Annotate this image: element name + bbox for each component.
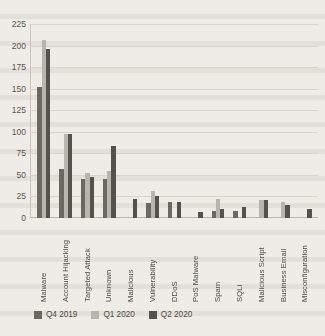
x-axis-tick-label: Targeted Attack <box>84 220 92 302</box>
x-axis-tick-label: Vulnerability <box>149 220 157 302</box>
bar <box>220 209 224 218</box>
x-axis-label-cell: SQLi <box>229 220 251 302</box>
legend-item[interactable]: Q1 2020 <box>91 310 134 319</box>
x-axis-tick-label: Misconfiguration <box>301 220 309 302</box>
x-axis-tick-label: SQLi <box>236 220 244 302</box>
bar <box>242 207 246 218</box>
x-axis-label-cell: Vulnerability <box>142 220 164 302</box>
y-axis-tick-label: 75 <box>0 148 26 158</box>
bar-group <box>207 24 229 218</box>
bar-group <box>251 24 273 218</box>
legend-swatch <box>149 311 157 319</box>
x-axis-tick-label: DDoS <box>171 220 179 302</box>
legend-item[interactable]: Q2 2020 <box>149 310 192 319</box>
bar <box>285 205 289 218</box>
x-axis-tick-label: Business Email <box>280 220 288 302</box>
y-axis-tick-label: 0 <box>0 213 26 223</box>
plot-area <box>30 24 318 218</box>
x-axis-label-cell: Business Email <box>272 220 294 302</box>
x-axis-label-cell: Account Hijacking <box>55 220 77 302</box>
grouped-bar-chart: 0255075100125150175200225 MalwareAccount… <box>0 0 325 336</box>
x-axis-tick-label: Spam <box>214 220 222 302</box>
y-axis-tick-label: 125 <box>0 105 26 115</box>
x-axis-tick-label: Unknown <box>105 220 113 302</box>
x-axis-label-cell: PoS Malware <box>185 220 207 302</box>
x-axis-label-cell: Misconfiguration <box>294 220 316 302</box>
x-axis-label-cell: Unknown <box>98 220 120 302</box>
bar-group <box>33 24 55 218</box>
x-axis-tick-labels: MalwareAccount HijackingTargeted AttackU… <box>30 220 318 302</box>
bar <box>168 202 172 218</box>
bar <box>264 200 268 218</box>
legend-item[interactable]: Q4 2019 <box>34 310 77 319</box>
x-axis-label-cell: Malicious <box>120 220 142 302</box>
legend-label: Q2 2020 <box>161 310 192 319</box>
bar <box>111 146 115 218</box>
y-axis-tick-label: 50 <box>0 170 26 180</box>
bar <box>133 199 137 218</box>
y-axis-tick-label: 175 <box>0 62 26 72</box>
bar-group <box>229 24 251 218</box>
x-axis-tick-label: Malicious <box>127 220 135 302</box>
bar-group <box>55 24 77 218</box>
y-axis-tick-label: 150 <box>0 84 26 94</box>
bar-group <box>164 24 186 218</box>
bar <box>155 196 159 218</box>
legend-label: Q4 2019 <box>46 310 77 319</box>
bar <box>177 202 181 218</box>
x-axis-label-cell: Malicious Script <box>251 220 273 302</box>
y-axis-tick-label: 25 <box>0 191 26 201</box>
bar <box>68 134 72 218</box>
x-axis-tick-label: PoS Malware <box>192 220 200 302</box>
bar-group <box>294 24 316 218</box>
chart-legend: Q4 2019Q1 2020Q2 2020 <box>34 310 192 319</box>
bar <box>46 49 50 218</box>
bar-group <box>77 24 99 218</box>
bar-group <box>185 24 207 218</box>
bar <box>198 212 202 218</box>
x-axis-label-cell: Targeted Attack <box>77 220 99 302</box>
bar-group <box>120 24 142 218</box>
y-axis-tick-label: 225 <box>0 19 26 29</box>
legend-swatch <box>91 311 99 319</box>
y-axis-tick-label: 200 <box>0 41 26 51</box>
legend-swatch <box>34 311 42 319</box>
bar-group <box>272 24 294 218</box>
x-axis-tick-label: Malware <box>40 220 48 302</box>
bar <box>233 211 237 218</box>
x-axis-label-cell: Spam <box>207 220 229 302</box>
x-axis-tick-label: Malicious Script <box>258 220 266 302</box>
bar-group <box>142 24 164 218</box>
x-axis-label-cell: Malware <box>33 220 55 302</box>
bar <box>307 209 311 218</box>
x-axis-tick-label: Account Hijacking <box>62 220 70 302</box>
y-axis-tick-label: 100 <box>0 127 26 137</box>
legend-label: Q1 2020 <box>103 310 134 319</box>
x-axis-label-cell: DDoS <box>164 220 186 302</box>
bar-groups <box>30 24 318 218</box>
bar-group <box>98 24 120 218</box>
bar <box>90 177 94 218</box>
